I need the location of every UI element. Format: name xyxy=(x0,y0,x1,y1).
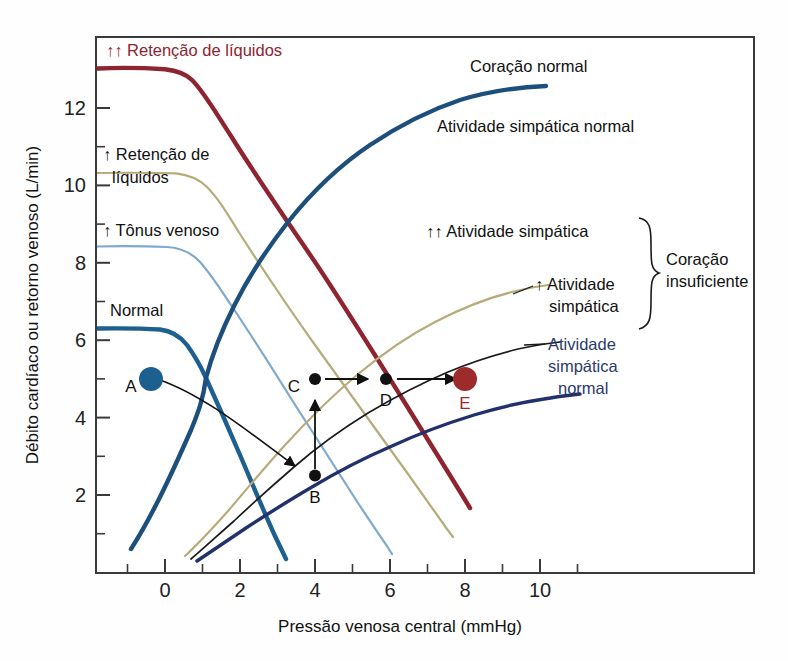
y-axis-title: Débito cardíaco ou retorno venoso (L/min… xyxy=(23,146,42,464)
annotation-atividade-dupla: ↑↑ Atividade simpática xyxy=(426,222,589,240)
annotation-simp-normal-line3: normal xyxy=(558,379,608,397)
x-tick-label-2: 2 xyxy=(234,579,245,601)
annotation-normal: Normal xyxy=(110,301,163,319)
annotation-atividade-line2: simpática xyxy=(549,297,620,315)
x-axis-title: Pressão venosa central (mmHg) xyxy=(278,617,522,636)
y-tick-label-10: 10 xyxy=(64,174,86,196)
data-point-e[interactable] xyxy=(453,367,477,391)
annotation-retencao-line1: ↑ Retenção de xyxy=(103,145,209,163)
annotation-coracao-insuf-line1: Coração xyxy=(666,250,728,268)
y-tick-label-6: 6 xyxy=(75,329,86,351)
annotation-tonus-venoso: ↑ Tônus venoso xyxy=(103,221,219,239)
data-point-label-d: D xyxy=(380,391,392,410)
annotation-simp-normal-line2: simpática xyxy=(548,357,619,375)
data-point-a[interactable] xyxy=(139,367,163,391)
data-point-label-c: C xyxy=(288,377,300,396)
data-point-label-a: A xyxy=(125,377,137,396)
x-tick-label-10: 10 xyxy=(529,579,551,601)
annotation-atividade-line1: ↑ Atividade xyxy=(535,275,615,293)
chart-svg: 12 10 8 6 4 2 0 2 4 6 8 10 xyxy=(0,0,788,661)
annotation-retencao-line2: líquidos xyxy=(112,168,169,186)
x-tick-label-6: 6 xyxy=(384,579,395,601)
data-point-b[interactable] xyxy=(309,470,321,482)
data-point-c[interactable] xyxy=(309,373,321,385)
annotation-coracao-insuf-line2: insuficiente xyxy=(666,272,749,290)
x-tick-label-4: 4 xyxy=(309,579,320,601)
annotation-simp-normal-line1: Atividade xyxy=(548,335,616,353)
data-point-label-b: B xyxy=(309,488,320,507)
y-tick-label-12: 12 xyxy=(64,97,86,119)
data-point-label-e: E xyxy=(459,394,470,413)
x-tick-label-8: 8 xyxy=(459,579,470,601)
annotation-coracao-normal: Coração normal xyxy=(470,57,587,75)
data-point-d[interactable] xyxy=(380,373,392,385)
figure-root: 12 10 8 6 4 2 0 2 4 6 8 10 xyxy=(0,0,788,661)
y-tick-label-2: 2 xyxy=(75,484,86,506)
x-tick-label-0: 0 xyxy=(159,579,170,601)
y-tick-label-8: 8 xyxy=(75,252,86,274)
y-tick-label-4: 4 xyxy=(75,407,86,429)
annotation-atividade-simpatica-normal: Atividade simpática normal xyxy=(437,117,634,135)
annotation-retencao-dupla: ↑↑ Retenção de líquidos xyxy=(106,41,282,59)
plot-frame xyxy=(96,37,754,573)
